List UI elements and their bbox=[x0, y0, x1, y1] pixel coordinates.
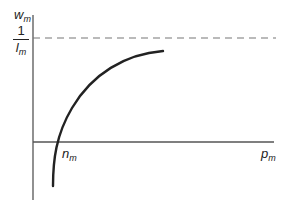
asymptote-label: 1 lm bbox=[13, 24, 29, 59]
asymptote-numerator: 1 bbox=[13, 24, 29, 38]
x-axis-label: pm bbox=[261, 147, 276, 163]
curve bbox=[53, 51, 163, 186]
y-axis-label-base: w bbox=[14, 7, 23, 22]
asymptote-denominator: lm bbox=[13, 41, 29, 59]
intercept-label: nm bbox=[62, 147, 77, 163]
intercept-label-sub: m bbox=[69, 153, 77, 163]
y-axis-label: wm bbox=[14, 8, 31, 24]
diagram-canvas bbox=[0, 0, 288, 210]
asymptote-denominator-sub: m bbox=[19, 47, 27, 57]
x-axis-label-sub: m bbox=[268, 153, 276, 163]
